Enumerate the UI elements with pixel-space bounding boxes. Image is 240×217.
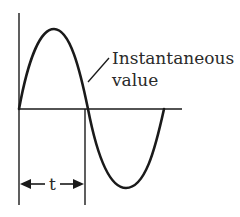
arrow-left-icon <box>20 179 31 189</box>
interval-label: t <box>49 174 56 194</box>
annotation-label-line2: value <box>111 70 158 90</box>
sine-wave-diagram: Instantaneous value t <box>0 0 240 217</box>
annotation-label-line1: Instantaneous <box>112 48 234 68</box>
annotation-leader-line <box>88 58 109 82</box>
arrow-right-icon <box>73 179 84 189</box>
